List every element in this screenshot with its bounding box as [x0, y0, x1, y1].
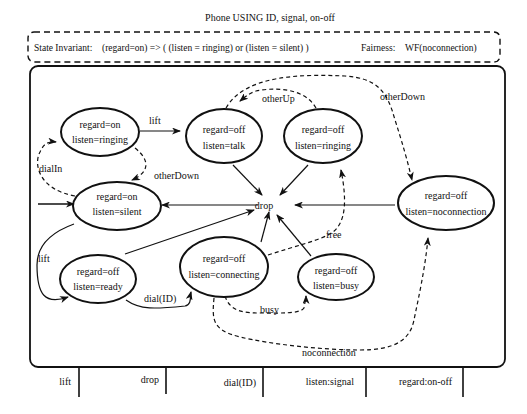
label-dialin: dialIn	[39, 163, 62, 174]
state-off-busy: regard=off listen=busy	[298, 254, 374, 300]
svg-text:regard=off: regard=off	[203, 124, 246, 135]
state-off-noconnection: regard=off listen=noconnection	[398, 176, 494, 230]
label-noconnection: noconnection	[302, 347, 356, 358]
label-otherup: otherUp	[262, 93, 295, 104]
edge-connecting-to-drop	[261, 212, 269, 242]
svg-text:regard=on: regard=on	[79, 119, 120, 130]
svg-text:listen=talk: listen=talk	[203, 140, 245, 151]
label-dial: dial(ID)	[144, 293, 176, 305]
label-busy: busy	[260, 304, 279, 315]
state-diagram: Phone USING ID, signal, on-off State Inv…	[0, 0, 527, 414]
svg-text:listen=connecting: listen=connecting	[188, 269, 259, 280]
label-lift-top: lift	[149, 115, 161, 126]
interface-lift: lift	[59, 376, 71, 387]
interface-bar: lift drop dial(ID) listen:signal regard:…	[59, 368, 463, 397]
state-off-talk: regard=off listen=talk	[186, 109, 262, 163]
svg-text:regard=on: regard=on	[96, 191, 137, 202]
state-off-connecting: regard=off listen=connecting	[180, 237, 268, 297]
svg-text:regard=off: regard=off	[302, 124, 345, 135]
interface-regard-on-off: regard:on-off	[399, 376, 453, 387]
interface-drop: drop	[141, 374, 159, 385]
svg-text:listen=noconnection: listen=noconnection	[405, 206, 486, 217]
svg-text:regard=off: regard=off	[77, 266, 120, 277]
edge-free	[268, 170, 345, 255]
label-free: free	[326, 229, 342, 240]
interface-listen-signal: listen:signal	[306, 376, 355, 387]
edge-otherdown-left	[132, 148, 146, 180]
label-lift-left: lift	[38, 253, 50, 264]
drop-junction: drop	[255, 200, 273, 211]
interface-dial: dial(ID)	[224, 377, 256, 389]
svg-text:listen=ready: listen=ready	[73, 281, 123, 292]
state-off-ringing: regard=off listen=ringing	[284, 109, 362, 163]
svg-text:regard=off: regard=off	[315, 265, 358, 276]
edge-busy-to-drop	[277, 215, 311, 256]
state-on-silent: regard=on listen=silent	[73, 182, 161, 230]
label-otherdown-right: otherDown	[380, 91, 425, 102]
diagram-title: Phone USING ID, signal, on-off	[205, 12, 335, 23]
invariant-label: State Invariant:	[34, 43, 92, 53]
svg-text:listen=silent: listen=silent	[93, 206, 142, 217]
svg-text:regard=off: regard=off	[425, 190, 468, 201]
fairness-expression: WF(noconnection)	[405, 43, 477, 54]
svg-text:listen=ringing: listen=ringing	[72, 134, 128, 145]
edge-offringing-to-drop	[280, 165, 308, 195]
state-off-ready: regard=off listen=ready	[60, 255, 136, 303]
svg-text:listen=busy: listen=busy	[313, 280, 359, 291]
invariant-expression: (regard=on) => ( (listen = ringing) or (…	[102, 43, 309, 54]
svg-text:listen=ringing: listen=ringing	[295, 140, 351, 151]
label-otherdown-left: otherDown	[154, 170, 199, 181]
state-on-ringing: regard=on listen=ringing	[61, 108, 139, 156]
fairness-label: Fairness:	[361, 43, 395, 53]
svg-text:regard=off: regard=off	[203, 253, 246, 264]
edge-talk-to-drop	[233, 165, 262, 195]
